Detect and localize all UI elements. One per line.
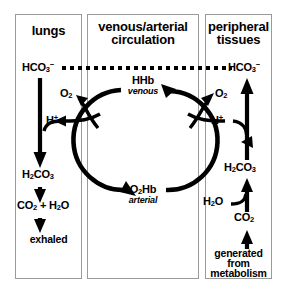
tissues-carbon-dioxide-label: CO2 [234,212,254,224]
lungs-bicarbonate-label: HCO3− [22,61,54,74]
panel-title-circulation-line2: circulation [88,33,198,47]
lungs-products-label: CO2 + H2O [17,200,69,212]
tissues-carbonic-acid-label: H2CO3 [224,162,256,174]
lungs-oxygen-label: O2 [60,88,72,100]
panel-title-lungs: lungs [15,24,82,38]
lungs-carbonic-acid-label: H2CO3 [22,169,54,181]
panel-box-circulation [88,15,199,279]
lungs-proton-label: H+ [46,114,58,127]
gas-transport-diagram: lungs venous/arterial circulation periph… [0,0,287,292]
tissues-source-line3: metabolism [203,268,274,279]
tissues-water-label: H2O [203,196,223,208]
tissues-proton-label: H+ [211,114,223,127]
tissues-oxygen-label: O2 [215,88,227,100]
panel-title-tissues-line2: tissues [205,33,272,47]
circulation-arterial-label: arterial [118,196,168,205]
circulation-venous-label: venous [118,87,168,96]
tissues-bicarbonate-label: HCO3− [228,61,260,74]
circulation-deoxyhemoglobin-label: HHb [118,75,168,87]
lungs-exhaled-label: exhaled [15,234,82,245]
